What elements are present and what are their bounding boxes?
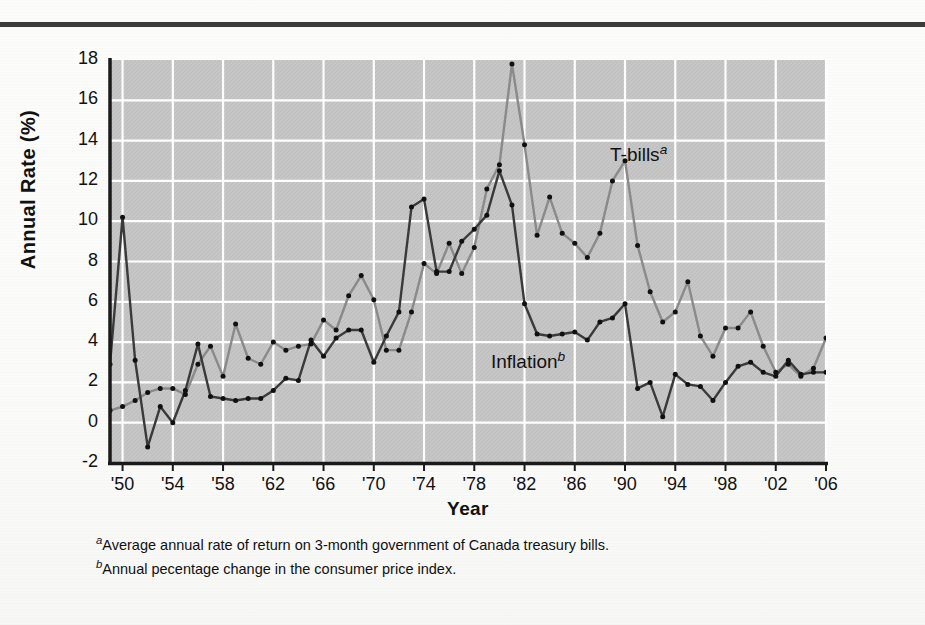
data-point-marker (773, 374, 778, 379)
y-axis-tick-label: 14 (54, 129, 98, 150)
data-point-marker (120, 215, 125, 220)
data-point-marker (158, 386, 163, 391)
y-axis-title: Annual Rate (%) (17, 55, 40, 325)
series-label-tbills: T-billsa (610, 142, 667, 166)
data-point-marker (472, 245, 477, 250)
data-point-marker (535, 332, 540, 337)
data-point-marker (258, 396, 263, 401)
data-point-marker (233, 321, 238, 326)
figure-container: Annual Rate (%) Year -2024681012141618 '… (0, 0, 925, 625)
x-axis-tick-label: '94 (647, 474, 703, 495)
data-point-marker (246, 396, 251, 401)
data-point-marker (509, 203, 514, 208)
data-point-marker (547, 195, 552, 200)
data-point-marker (673, 372, 678, 377)
data-point-marker (685, 382, 690, 387)
y-axis-tick-label: 2 (54, 370, 98, 391)
x-axis-tick-label: '54 (145, 474, 201, 495)
y-axis-tick-label: -2 (54, 451, 98, 472)
data-point-marker (484, 213, 489, 218)
data-point-marker (371, 360, 376, 365)
x-axis-tick-label: '82 (497, 474, 553, 495)
data-point-marker (447, 241, 452, 246)
data-point-marker (346, 328, 351, 333)
data-point-marker (560, 332, 565, 337)
x-axis-tick-label: '86 (547, 474, 603, 495)
data-point-marker (736, 325, 741, 330)
data-point-marker (396, 348, 401, 353)
data-point-marker (673, 309, 678, 314)
data-point-marker (208, 344, 213, 349)
x-axis-tick-label: '70 (346, 474, 402, 495)
data-point-marker (635, 243, 640, 248)
data-point-marker (409, 205, 414, 210)
data-point-marker (710, 398, 715, 403)
data-point-marker (572, 241, 577, 246)
data-point-marker (648, 289, 653, 294)
data-point-marker (623, 301, 628, 306)
y-axis-tick-label: 4 (54, 330, 98, 351)
x-axis-tick-label: '78 (446, 474, 502, 495)
x-axis-tick-label: '02 (748, 474, 804, 495)
x-axis-tick-label: '06 (798, 474, 854, 495)
data-point-marker (811, 370, 816, 375)
data-point-marker (133, 398, 138, 403)
data-point-marker (208, 394, 213, 399)
data-point-marker (736, 364, 741, 369)
data-point-marker (798, 372, 803, 377)
data-point-marker (572, 330, 577, 335)
data-point-marker (246, 356, 251, 361)
data-point-marker (610, 315, 615, 320)
data-point-marker (459, 271, 464, 276)
data-point-marker (120, 404, 125, 409)
data-point-marker (585, 255, 590, 260)
footnote-a: aAverage annual rate of return on 3-mont… (96, 531, 856, 555)
data-point-marker (497, 168, 502, 173)
data-point-marker (547, 334, 552, 339)
data-point-marker (685, 279, 690, 284)
series-label-inflation-footnote-marker: b (558, 349, 566, 364)
data-point-marker (710, 354, 715, 359)
data-point-marker (786, 358, 791, 363)
data-point-marker (271, 388, 276, 393)
data-point-marker (597, 319, 602, 324)
y-axis-tick-label: 6 (54, 290, 98, 311)
x-axis-tick-label: '62 (245, 474, 301, 495)
x-axis-tick-label: '50 (95, 474, 151, 495)
x-axis-tick-label: '58 (195, 474, 251, 495)
data-point-marker (522, 301, 527, 306)
data-point-marker (597, 231, 602, 236)
data-point-marker (509, 62, 514, 67)
series-label-tbills-footnote-marker: a (660, 142, 668, 157)
data-point-marker (195, 342, 200, 347)
x-axis-tick-label: '66 (296, 474, 352, 495)
data-point-marker (748, 360, 753, 365)
data-point-marker (145, 444, 150, 449)
y-axis-tick-label: 10 (54, 209, 98, 230)
y-axis-tick-label: 18 (54, 48, 98, 69)
series-label-inflation: Inflationb (491, 349, 565, 373)
data-point-marker (660, 414, 665, 419)
y-axis-tick-label: 12 (54, 169, 98, 190)
data-point-marker (384, 348, 389, 353)
data-point-marker (698, 384, 703, 389)
data-point-marker (497, 162, 502, 167)
data-point-marker (221, 374, 226, 379)
data-point-marker (522, 142, 527, 147)
footnotes-block: aAverage annual rate of return on 3-mont… (96, 531, 856, 579)
x-axis-tick-label: '90 (597, 474, 653, 495)
x-axis-tick-label: '74 (396, 474, 452, 495)
data-point-marker (346, 293, 351, 298)
data-point-marker (321, 354, 326, 359)
y-axis-tick-label: 16 (54, 88, 98, 109)
data-point-marker (384, 334, 389, 339)
data-point-marker (308, 338, 313, 343)
data-point-marker (422, 197, 427, 202)
data-point-marker (283, 376, 288, 381)
data-point-marker (560, 231, 565, 236)
data-point-marker (761, 344, 766, 349)
data-point-marker (422, 261, 427, 266)
data-point-marker (258, 362, 263, 367)
data-point-marker (158, 404, 163, 409)
data-point-marker (748, 309, 753, 314)
